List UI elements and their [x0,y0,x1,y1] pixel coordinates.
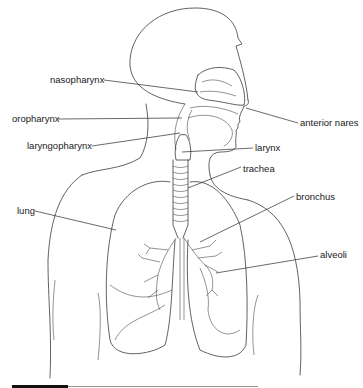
leader-larynx [182,148,253,152]
lung-left-fissure [110,285,172,297]
leader-laryngopharynx [92,133,180,146]
shoulder-right [248,200,301,375]
tongue [188,115,232,146]
leader-bronchus [200,196,294,242]
lung-left-lower [115,305,165,340]
label-nasopharynx: nasopharynx [50,75,104,85]
arm-line-right [253,295,258,355]
respiratory-system-diagram: nasopharynx anterior nares oropharynx la… [0,0,363,388]
pharynx-inner [187,110,192,140]
label-trachea: trachea [243,164,275,174]
leader-oropharynx [58,118,182,119]
neck-right [210,175,248,200]
trachea-left [173,160,178,238]
leader-lung [35,211,116,230]
lung-left [106,181,175,354]
nasal-cavity [195,67,244,105]
trachea-right [183,160,188,238]
leader-alveoli [216,256,318,273]
bronchi-right [184,238,222,296]
larynx [175,135,191,160]
leader-anterior-nares [246,108,298,123]
label-anterior-nares: anterior nares [300,118,359,128]
head-outline [130,8,248,104]
shoulder-left [48,175,82,378]
label-alveoli: alveoli [320,250,347,260]
palate [190,106,238,114]
label-lung: lung [17,206,35,216]
turbinate-1 [202,80,232,86]
arm-line-left [53,280,55,340]
label-laryngopharynx: laryngopharynx [27,141,92,151]
trachea-rings [173,166,188,222]
scale-bar-light [68,386,258,387]
label-larynx: larynx [255,143,280,153]
heart-notch [200,268,240,334]
esophagus [180,238,184,320]
label-oropharynx: oropharynx [12,114,60,124]
turbinate-2 [200,91,236,96]
arm-line-right2 [98,293,100,360]
bronchi-left [138,238,176,310]
label-bronchus: bronchus [296,192,335,202]
leader-nasopharynx [104,80,198,92]
